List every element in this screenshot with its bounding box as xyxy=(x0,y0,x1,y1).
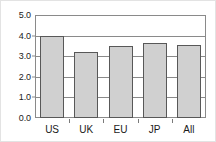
x-tick-label: UK xyxy=(79,124,93,135)
y-axis: 0.01.02.03.04.05.0 xyxy=(1,1,35,142)
x-tick-label: JP xyxy=(149,124,161,135)
y-tick-label: 1.0 xyxy=(19,93,31,102)
y-tick-mark xyxy=(32,76,35,77)
x-axis: USUKEUJPAll xyxy=(35,122,206,142)
y-tick-mark xyxy=(32,35,35,36)
bar xyxy=(109,46,133,118)
bar-chart: 0.01.02.03.04.05.0 USUKEUJPAll xyxy=(0,0,216,142)
bar xyxy=(40,36,64,118)
y-tick-label: 3.0 xyxy=(19,52,31,61)
y-tick-label: 5.0 xyxy=(19,11,31,20)
y-tick-mark xyxy=(32,56,35,57)
bars-group xyxy=(35,15,206,118)
y-tick-label: 0.0 xyxy=(19,114,31,123)
bar xyxy=(143,43,167,118)
y-tick-label: 4.0 xyxy=(19,31,31,40)
bar xyxy=(74,52,98,118)
bar xyxy=(177,45,201,118)
x-tick-label: EU xyxy=(114,124,128,135)
x-tick-label: All xyxy=(183,124,194,135)
x-tick-label: US xyxy=(45,124,59,135)
y-tick-mark xyxy=(32,97,35,98)
y-tick-label: 2.0 xyxy=(19,72,31,81)
